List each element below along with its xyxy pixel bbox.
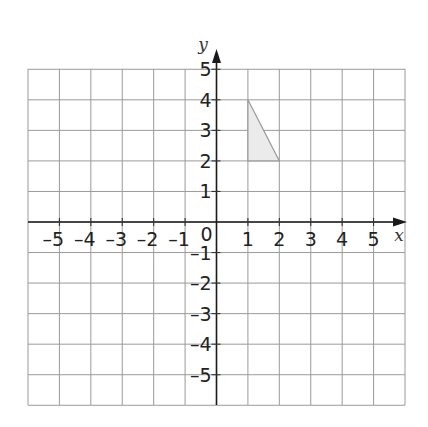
x-tick-label: –2: [137, 228, 159, 250]
y-axis-label: y: [197, 34, 208, 54]
x-tick-label: –3: [105, 228, 127, 250]
x-tick-label: –5: [43, 228, 65, 250]
x-tick-label: 3: [305, 228, 317, 250]
y-tick-label: 1: [199, 180, 211, 202]
y-tick-label: 4: [199, 89, 211, 111]
x-tick-label: 1: [242, 228, 254, 250]
y-tick-label: 2: [199, 150, 211, 172]
y-tick-label: –2: [190, 272, 212, 294]
y-tick-label: –3: [190, 303, 212, 325]
x-tick-label: 5: [368, 228, 380, 250]
y-tick-label: –4: [190, 333, 212, 355]
x-tick-label: 4: [336, 228, 348, 250]
y-tick-label: 5: [199, 58, 211, 80]
y-tick-label: 3: [199, 119, 211, 141]
x-tick-label: 2: [273, 228, 285, 250]
y-axis-arrow-icon: [212, 49, 221, 63]
x-tick-label: –1: [168, 228, 190, 250]
axes: [28, 49, 407, 405]
y-tick-label: –5: [190, 364, 212, 386]
coordinate-plane: –5–4–3–2–11234554321–1–2–3–4–5 0 x y: [0, 0, 428, 427]
x-tick-label: –4: [74, 228, 96, 250]
origin-label: 0: [200, 223, 212, 245]
x-axis-label: x: [394, 225, 404, 245]
